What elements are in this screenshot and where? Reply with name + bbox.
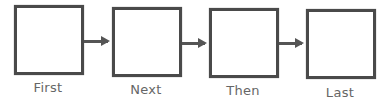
step-label-last: Last [300,85,380,100]
step-label-next: Next [106,82,186,97]
step-box-then [209,8,279,78]
arrow-icon [84,40,108,43]
step-box-next [112,7,182,77]
arrow-icon [279,42,302,45]
step-label-then: Then [203,83,283,98]
step-box-first [14,5,84,75]
arrow-icon [182,42,205,45]
step-label-first: First [8,80,88,95]
step-box-last [306,9,376,79]
